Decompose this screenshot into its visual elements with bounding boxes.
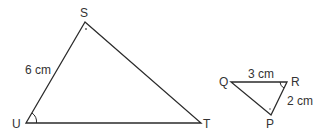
angle-u-arc-marker	[32, 113, 37, 123]
angle-p-dot-marker	[269, 108, 271, 110]
angle-r-arc-marker	[280, 82, 284, 88]
vertex-label-u: U	[12, 117, 21, 131]
vertex-label-s: S	[80, 6, 88, 20]
vertex-label-t: T	[203, 117, 211, 131]
side-su-length-label: 6 cm	[25, 63, 51, 77]
side-rp-length-label: 2 cm	[287, 94, 313, 108]
vertex-label-r: R	[291, 75, 300, 89]
triangle-pqr: Q R P 3 cm 2 cm	[219, 67, 313, 131]
side-qr-length-label: 3 cm	[248, 67, 274, 81]
triangle-stu-outline	[26, 22, 201, 123]
angle-s-dot-marker	[85, 28, 87, 30]
triangle-pqr-outline	[231, 82, 287, 115]
similar-triangles-diagram: S U T 6 cm Q R P 3 cm 2 cm	[0, 0, 328, 136]
triangle-stu: S U T 6 cm	[12, 6, 211, 131]
vertex-label-p: P	[266, 117, 274, 131]
vertex-label-q: Q	[219, 75, 228, 89]
